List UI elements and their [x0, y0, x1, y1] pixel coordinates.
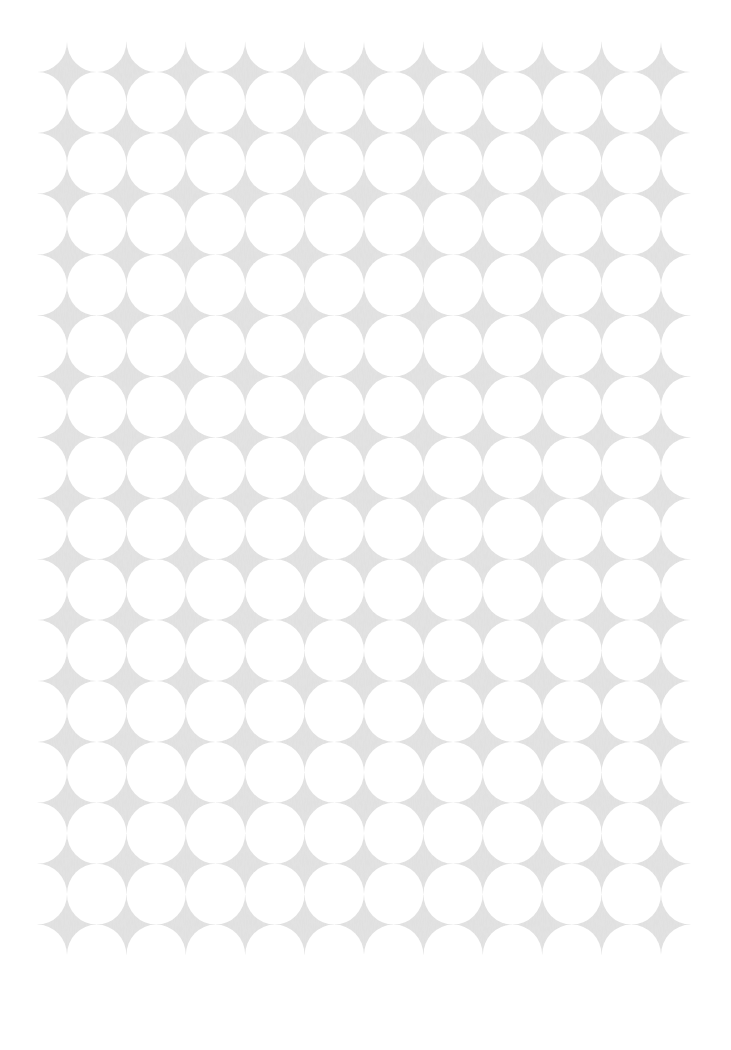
white-circle [542, 377, 601, 438]
white-circle [305, 377, 364, 438]
white-circle [542, 498, 601, 559]
white-circle [186, 620, 245, 681]
white-circle [67, 377, 126, 438]
white-circle [364, 559, 423, 620]
white-circle [602, 255, 661, 316]
white-circle [602, 925, 661, 986]
white-circle [305, 864, 364, 925]
white-circle [245, 864, 304, 925]
white-circle [305, 133, 364, 194]
white-circle [483, 498, 542, 559]
white-circle [483, 803, 542, 864]
white-circle [364, 133, 423, 194]
white-circle [67, 194, 126, 255]
white-circle [245, 316, 304, 377]
white-circle [661, 316, 720, 377]
white-circle [661, 620, 720, 681]
white-circle [661, 742, 720, 803]
white-circle [542, 133, 601, 194]
white-circle [67, 498, 126, 559]
white-circle [661, 681, 720, 742]
white-circle [364, 803, 423, 864]
white-circle [305, 316, 364, 377]
white-circle [661, 498, 720, 559]
white-circle [67, 742, 126, 803]
white-circle [423, 681, 482, 742]
white-circle [602, 133, 661, 194]
white-circle [305, 742, 364, 803]
white-circle [483, 559, 542, 620]
white-circle [364, 620, 423, 681]
white-circle [8, 11, 67, 72]
white-circle [542, 681, 601, 742]
white-circle [423, 316, 482, 377]
white-circle [661, 11, 720, 72]
white-circle [67, 133, 126, 194]
white-circle [661, 72, 720, 133]
white-circle [483, 72, 542, 133]
white-circle [542, 194, 601, 255]
white-circle [126, 498, 185, 559]
white-circle [483, 194, 542, 255]
white-circle [305, 559, 364, 620]
white-circle [364, 925, 423, 986]
white-circle [423, 498, 482, 559]
white-circle [245, 559, 304, 620]
white-circle [305, 255, 364, 316]
white-circle [602, 742, 661, 803]
white-circle [483, 925, 542, 986]
white-circle [423, 133, 482, 194]
white-circle [67, 925, 126, 986]
white-circle [483, 742, 542, 803]
white-circle [186, 316, 245, 377]
white-circle [126, 864, 185, 925]
white-circle [661, 194, 720, 255]
white-circle [67, 864, 126, 925]
white-circle [364, 498, 423, 559]
white-circle [602, 377, 661, 438]
white-circle [542, 255, 601, 316]
white-circle [602, 620, 661, 681]
white-circle [67, 803, 126, 864]
white-circle [67, 559, 126, 620]
white-circle [186, 377, 245, 438]
white-circle [67, 620, 126, 681]
white-circle [661, 925, 720, 986]
white-circle [126, 681, 185, 742]
white-circle [542, 803, 601, 864]
white-circle [245, 620, 304, 681]
white-circle [126, 803, 185, 864]
white-circle [186, 742, 245, 803]
white-circle [8, 255, 67, 316]
white-circle [602, 803, 661, 864]
white-circle [602, 559, 661, 620]
white-circle [126, 72, 185, 133]
white-circle [186, 559, 245, 620]
white-circle [542, 11, 601, 72]
white-circle [542, 620, 601, 681]
white-circle [305, 11, 364, 72]
white-circle [483, 316, 542, 377]
white-circle [305, 498, 364, 559]
white-circle [186, 803, 245, 864]
white-circle [8, 925, 67, 986]
white-circle [423, 742, 482, 803]
white-circle [67, 681, 126, 742]
white-circle [126, 742, 185, 803]
white-circle [542, 742, 601, 803]
white-circle [305, 925, 364, 986]
white-circle [661, 559, 720, 620]
white-circle [423, 377, 482, 438]
white-circle [126, 437, 185, 498]
white-circle [8, 803, 67, 864]
white-circle [8, 559, 67, 620]
white-circle [423, 437, 482, 498]
white-circle [8, 72, 67, 133]
white-circle [423, 559, 482, 620]
white-circle [423, 864, 482, 925]
white-circle [364, 194, 423, 255]
white-circle [8, 194, 67, 255]
white-circle [245, 803, 304, 864]
white-circle [8, 864, 67, 925]
white-circle [542, 72, 601, 133]
